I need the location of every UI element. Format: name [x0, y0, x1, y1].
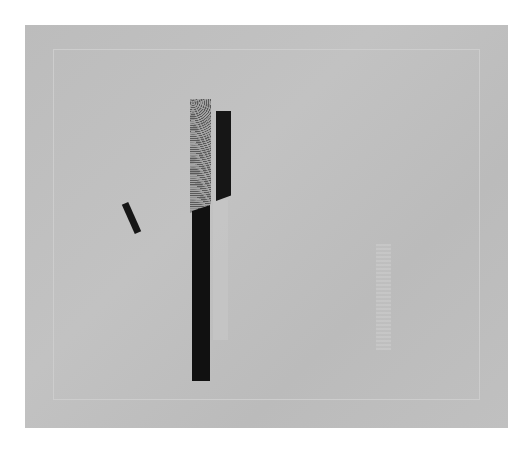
black-short-bar [216, 111, 231, 201]
artwork-description: Abstract constructivist composition on g… [25, 25, 26, 26]
black-long-bar [192, 205, 210, 381]
ghost-strip [213, 200, 228, 340]
ghost-right-strip [376, 244, 391, 350]
inner-frame-line [53, 49, 480, 400]
speckled-bar [190, 99, 211, 213]
